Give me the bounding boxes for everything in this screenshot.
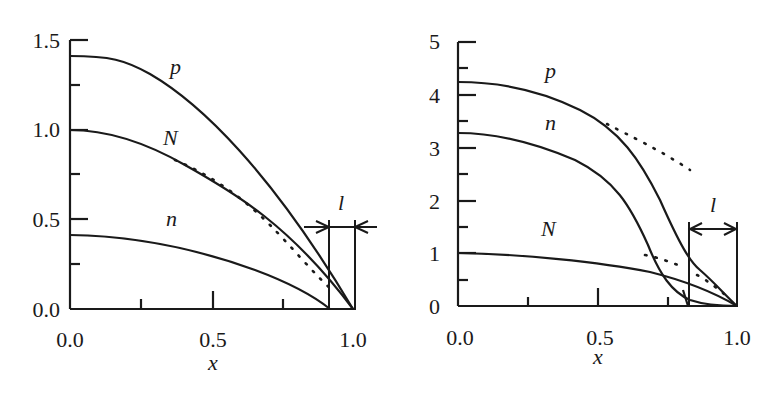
left-xtick-1.0: 1.0 xyxy=(339,327,367,352)
left-ytick-0.5: 0.5 xyxy=(33,207,61,232)
left-curve-p xyxy=(70,56,353,309)
right-x-tick-labels: 0.0 0.5 1.0 x xyxy=(446,325,751,369)
right-ytick-4: 4 xyxy=(429,83,440,108)
left-curve-N xyxy=(70,130,353,309)
right-ytick-3: 3 xyxy=(429,136,440,161)
right-curve-n xyxy=(458,133,737,306)
right-x-axis-label: x xyxy=(592,344,603,369)
right-interval-l: l xyxy=(689,192,737,306)
right-label-n: n xyxy=(545,110,556,135)
figure: 1.5 1.0 0.5 0.0 0.0 0.5 1.0 x l p N n xyxy=(0,0,763,398)
right-label-N: N xyxy=(540,216,557,241)
right-ytick-1: 1 xyxy=(429,241,440,266)
right-label-p: p xyxy=(543,58,556,83)
right-y-tick-labels: 5 4 3 2 1 0 xyxy=(429,29,440,319)
left-axes xyxy=(70,40,356,309)
right-xtick-0.0: 0.0 xyxy=(446,325,474,350)
right-chart: 5 4 3 2 1 0 0.0 0.5 1.0 x l xyxy=(429,29,751,369)
right-curve-p xyxy=(458,82,737,306)
left-x-axis-label: x xyxy=(207,350,218,375)
right-xtick-1.0: 1.0 xyxy=(723,325,751,350)
left-ytick-0.0: 0.0 xyxy=(33,297,61,322)
right-interval-label: l xyxy=(710,192,716,217)
left-label-p: p xyxy=(168,54,181,79)
right-ytick-5: 5 xyxy=(429,29,440,54)
left-label-n: n xyxy=(166,206,177,231)
left-label-N: N xyxy=(162,125,179,150)
left-ytick-1.5: 1.5 xyxy=(33,28,61,53)
left-chart: 1.5 1.0 0.5 0.0 0.0 0.5 1.0 x l p N n xyxy=(33,28,378,375)
right-ytick-2: 2 xyxy=(429,189,440,214)
left-y-tick-labels: 1.5 1.0 0.5 0.0 xyxy=(33,28,61,322)
left-xtick-0.0: 0.0 xyxy=(56,327,84,352)
left-x-tick-labels: 0.0 0.5 1.0 x xyxy=(56,327,367,375)
left-curve-n xyxy=(70,235,330,309)
right-ytick-0: 0 xyxy=(429,294,440,319)
left-ytick-1.0: 1.0 xyxy=(33,117,61,142)
left-interval-label: l xyxy=(338,190,344,215)
right-curve-p-dotted xyxy=(607,124,690,170)
left-xtick-0.5: 0.5 xyxy=(199,327,227,352)
right-curve-N-dotted xyxy=(645,255,678,265)
